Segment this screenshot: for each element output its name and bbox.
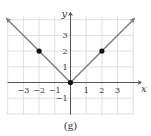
graph: xy−3−2−1123−1123 (0, 0, 151, 136)
y-axis-label: y (61, 8, 68, 19)
x-tick-label: 2 (99, 86, 104, 95)
axes (8, 12, 142, 115)
data-point (68, 80, 73, 85)
x-tick-label: −2 (33, 86, 45, 95)
x-tick-label: 1 (84, 86, 89, 95)
y-tick-label: 1 (62, 63, 67, 72)
tick-labels: xy−3−2−1123−1123 (18, 8, 147, 103)
data-point (99, 49, 104, 54)
x-tick-label: −3 (18, 86, 30, 95)
x-axis-label: x (141, 83, 147, 94)
data-point (37, 49, 42, 54)
y-tick-label: 2 (62, 47, 67, 56)
y-tick-label: −1 (56, 94, 68, 103)
x-tick-label: −1 (49, 86, 61, 95)
figure-caption: (g) (0, 119, 141, 131)
y-tick-label: 3 (62, 31, 67, 40)
x-tick-label: 3 (115, 86, 120, 95)
